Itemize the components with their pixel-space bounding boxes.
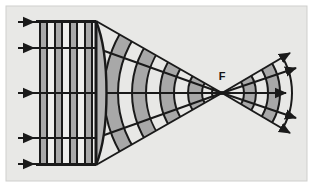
optics-figure: F — [0, 0, 313, 187]
focal-point-label: F — [219, 70, 226, 82]
focal-point-marker — [220, 91, 224, 95]
optics-diagram-svg: F — [0, 0, 313, 187]
